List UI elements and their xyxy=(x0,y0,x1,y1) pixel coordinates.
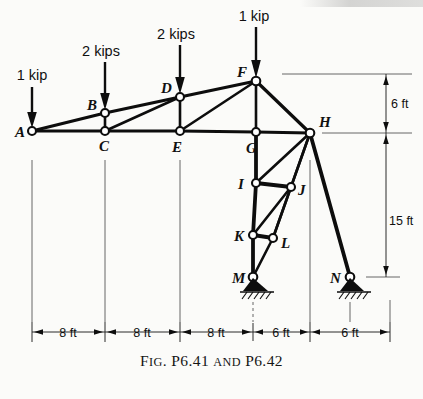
joint-B xyxy=(101,109,109,117)
caption-and: AND xyxy=(213,355,241,369)
truss-diagram-svg: 1 kip 2 kips 2 kips 1 kip A B C D E F G … xyxy=(0,0,423,399)
joint-L xyxy=(269,234,277,242)
member-H-N xyxy=(310,133,350,277)
load-label-B: 2 kips xyxy=(82,43,120,59)
member-I-J xyxy=(256,183,291,187)
vertical-dimensions: 6 ft 15 ft xyxy=(282,74,414,277)
truss-joints xyxy=(28,77,354,282)
caption-number-1: . P6.41 xyxy=(163,352,214,369)
joint-label-D: D xyxy=(160,80,172,96)
load-label-A: 1 kip xyxy=(17,67,48,83)
caption-fig-ig: IG xyxy=(149,355,163,369)
truss-figure: 1 kip 2 kips 2 kips 1 kip A B C D E F G … xyxy=(0,0,423,399)
joint-E xyxy=(176,127,184,135)
joint-label-N: N xyxy=(329,270,342,286)
horizontal-dimensions: 8 ft 8 ft 8 ft 6 ft 6 ft xyxy=(32,322,390,342)
joint-label-M: M xyxy=(231,270,246,286)
scan-artifact xyxy=(300,0,423,7)
joint-D xyxy=(176,93,184,101)
joint-label-H: H xyxy=(318,114,332,130)
joint-label-K: K xyxy=(233,228,245,244)
joint-H xyxy=(306,129,315,138)
load-label-F: 1 kip xyxy=(239,8,270,24)
member-A-B xyxy=(32,113,105,131)
joint-J xyxy=(287,183,295,191)
load-arrow-D xyxy=(175,45,185,94)
dim-label-6ft-2: 6 ft xyxy=(341,326,359,340)
dim-label-8ft-1: 8 ft xyxy=(59,326,77,340)
member-E-G xyxy=(180,131,256,132)
support-pin-N xyxy=(337,278,371,299)
member-C-D xyxy=(105,97,180,131)
dim-label-6ft-vertical: 6 ft xyxy=(391,97,409,111)
member-I-K xyxy=(253,183,256,235)
joint-label-I: I xyxy=(237,176,245,192)
truss-members xyxy=(32,81,350,277)
joint-K xyxy=(249,231,257,239)
joint-G xyxy=(252,128,260,136)
joint-label-C: C xyxy=(99,138,110,154)
load-arrow-F xyxy=(251,27,261,78)
joint-I xyxy=(252,179,260,187)
joint-label-E: E xyxy=(171,139,182,155)
joint-A xyxy=(28,127,36,135)
joint-label-G: G xyxy=(246,140,257,156)
member-J-K xyxy=(253,187,291,235)
figure-caption: FIG. P6.41 AND P6.42 xyxy=(0,352,423,370)
caption-fig-f: F xyxy=(140,352,149,369)
supports xyxy=(240,278,371,299)
joint-label-B: B xyxy=(86,97,97,113)
member-F-H xyxy=(256,81,310,133)
load-arrow-B xyxy=(100,62,110,110)
member-B-D xyxy=(105,97,180,113)
load-label-D: 2 kips xyxy=(157,26,195,42)
dim-label-15ft-vertical: 15 ft xyxy=(389,214,414,228)
member-J-L xyxy=(273,187,291,238)
joint-label-L: L xyxy=(280,235,290,251)
joint-C xyxy=(101,127,109,135)
member-L-M xyxy=(253,238,273,277)
dim-label-6ft-1: 6 ft xyxy=(272,326,290,340)
dim-label-8ft-3: 8 ft xyxy=(207,326,225,340)
member-G-H xyxy=(256,132,310,133)
joint-label-A: A xyxy=(14,124,25,140)
joint-label-J: J xyxy=(297,182,306,198)
caption-number-2: P6.42 xyxy=(241,352,283,369)
dim-label-8ft-2: 8 ft xyxy=(133,326,151,340)
joint-label-F: F xyxy=(236,64,247,80)
load-arrow-A xyxy=(27,87,37,128)
dimension-extension-lines xyxy=(32,160,390,322)
